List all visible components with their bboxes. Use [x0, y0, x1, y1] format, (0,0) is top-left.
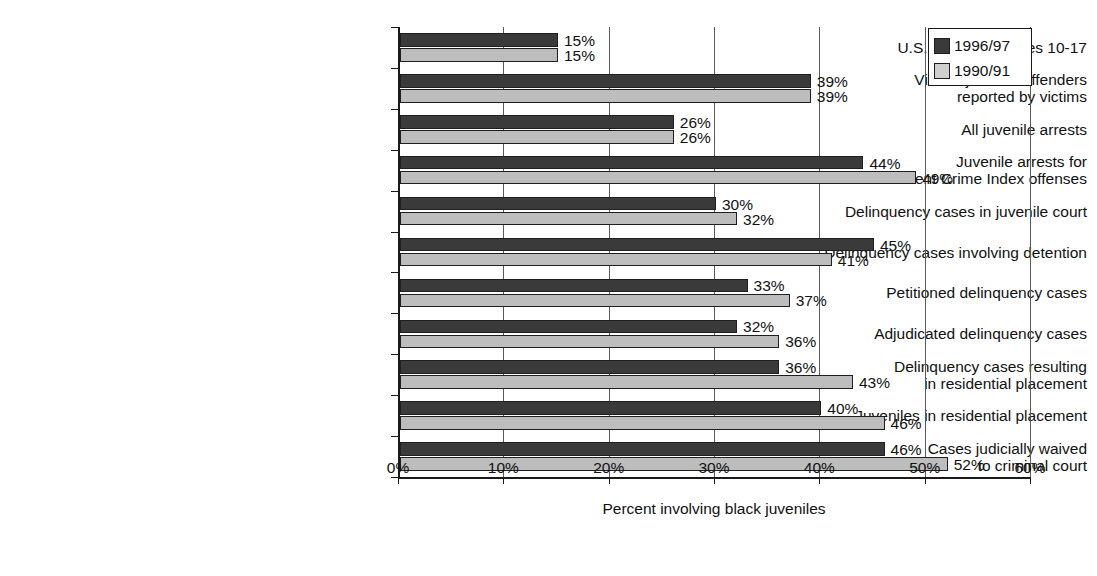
bar-value-label: 41%: [838, 253, 869, 269]
bar-value-label: 32%: [743, 319, 774, 335]
plot-area: 15%15%39%39%26%26%44%49%30%32%45%41%33%3…: [398, 27, 1030, 477]
y-tick: [391, 27, 399, 28]
bar-value-label: 46%: [891, 416, 922, 432]
x-tick-label: 40%: [784, 459, 854, 477]
x-tick-label: 20%: [574, 459, 644, 477]
x-tick-label: 30%: [679, 459, 749, 477]
bar-1: [400, 212, 737, 226]
bar-value-label: 40%: [827, 401, 858, 417]
bar-value-label: 46%: [891, 442, 922, 458]
bar-value-label: 37%: [796, 293, 827, 309]
bar-value-label: 36%: [785, 334, 816, 350]
x-tick-label: 50%: [890, 459, 960, 477]
legend-item-1990-91: 1990/91: [934, 58, 1031, 83]
bar-value-label: 36%: [785, 360, 816, 376]
x-tick: [503, 477, 504, 484]
bar-1: [400, 416, 885, 430]
y-tick: [391, 68, 399, 69]
bar-1: [400, 335, 779, 349]
bar-0: [400, 33, 558, 47]
bar-value-label: 33%: [754, 278, 785, 294]
y-tick: [391, 313, 399, 314]
y-tick: [391, 272, 399, 273]
bar-0: [400, 442, 885, 456]
x-tick: [925, 477, 926, 484]
y-tick: [391, 191, 399, 192]
bar-0: [400, 197, 716, 211]
legend-label: 1996/97: [954, 37, 1010, 55]
x-tick-label: 0%: [363, 459, 433, 477]
bar-1: [400, 253, 832, 267]
legend-item-1996-97: 1996/97: [934, 33, 1031, 58]
bar-value-label: 26%: [680, 115, 711, 131]
x-tick: [819, 477, 820, 484]
x-tick: [609, 477, 610, 484]
bar-0: [400, 320, 737, 334]
bar-1: [400, 375, 853, 389]
legend-label: 1990/91: [954, 62, 1010, 80]
bar-0: [400, 401, 821, 415]
bar-1: [400, 48, 558, 62]
bar-value-label: 30%: [722, 197, 753, 213]
bar-value-label: 49%: [922, 171, 953, 187]
chart-legend: 1996/97 1990/91: [928, 28, 1032, 86]
y-tick: [391, 395, 399, 396]
bar-value-label: 45%: [880, 238, 911, 254]
bar-value-label: 44%: [869, 156, 900, 172]
gridline: [1030, 27, 1031, 477]
bar-1: [400, 171, 916, 185]
x-axis-title: Percent involving black juveniles: [398, 500, 1030, 518]
bar-0: [400, 115, 674, 129]
x-tick: [714, 477, 715, 484]
bar-0: [400, 360, 779, 374]
bar-1: [400, 294, 790, 308]
bar-value-label: 39%: [817, 89, 848, 105]
x-tick-label: 10%: [468, 459, 538, 477]
y-tick: [391, 109, 399, 110]
y-tick: [391, 436, 399, 437]
y-tick: [391, 150, 399, 151]
bar-0: [400, 156, 863, 170]
y-tick: [391, 354, 399, 355]
y-tick: [391, 232, 399, 233]
light-square-icon: [934, 63, 950, 79]
x-tick: [398, 477, 399, 484]
x-tick: [1030, 477, 1031, 484]
bar-1: [400, 89, 811, 103]
bar-0: [400, 279, 748, 293]
bar-0: [400, 238, 874, 252]
bar-value-label: 15%: [564, 48, 595, 64]
x-tick-label: 60%: [995, 459, 1065, 477]
bar-value-label: 43%: [859, 375, 890, 391]
bar-0: [400, 74, 811, 88]
dark-square-icon: [934, 38, 950, 54]
gridline: [925, 27, 926, 477]
chart-canvas: U.S. Population ages 10-17Violent juveni…: [0, 0, 1097, 576]
bar-1: [400, 130, 674, 144]
bar-value-label: 26%: [680, 130, 711, 146]
bar-value-label: 32%: [743, 212, 774, 228]
